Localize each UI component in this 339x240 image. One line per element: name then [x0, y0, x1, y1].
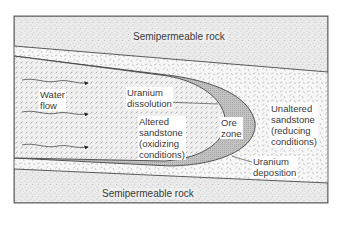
label-semipermeable-rock-bottom: Semipermeable rock [100, 188, 196, 199]
label-uranium-dissolution: Uranium dissolution [126, 87, 173, 109]
label-water-flow: Water flow [39, 89, 66, 111]
label-ore-zone: Ore zone [220, 117, 243, 139]
label-altered-sandstone: Altered sandstone (oxidizing conditions) [138, 116, 186, 160]
label-unaltered-sandstone: Unaltered sandstone (reducing conditions… [270, 103, 318, 147]
label-semipermeable-rock-top: Semipermeable rock [131, 31, 227, 42]
label-uranium-deposition: Uranium deposition [252, 156, 297, 178]
